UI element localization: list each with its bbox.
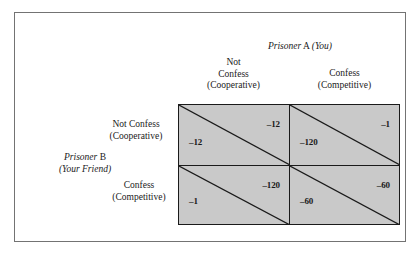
row-header-1-line1: Confess — [105, 180, 173, 192]
payoff-b-0-0: –12 — [189, 137, 202, 147]
column-header-not-confess: Not Confess (Cooperative) — [178, 57, 289, 92]
payoff-a-1-1: –60 — [377, 180, 390, 190]
cell-diagonal-line-icon — [290, 105, 399, 165]
column-axis-title-suffix: (You) — [312, 41, 332, 51]
column-axis-title: Prisoner A (You) — [205, 41, 395, 52]
figure-frame: Prisoner A (You) Not Confess (Cooperativ… — [14, 12, 406, 242]
column-header-0-line2: Confess — [178, 69, 289, 81]
column-axis-title-letter: A — [303, 41, 309, 51]
row-header-0-line2: (Cooperative) — [99, 131, 173, 143]
row-axis-title-line1: Prisoner B — [37, 152, 133, 164]
row-axis-title-letter: B — [100, 152, 106, 162]
column-header-0-line3: (Cooperative) — [178, 80, 289, 92]
column-header-1-line2: (Competitive) — [289, 80, 400, 92]
payoff-a-0-0: –12 — [267, 119, 280, 129]
matrix-cell-notconfess-notconfess: –12 –12 — [179, 105, 289, 165]
cell-diagonal-line-icon — [179, 166, 289, 225]
cell-diagonal-line-icon — [290, 166, 399, 225]
scan-artifact-strip — [0, 0, 419, 7]
column-header-1-line1: Confess — [289, 68, 400, 80]
payoff-b-0-1: –120 — [300, 137, 318, 147]
column-header-0-line1: Not — [178, 57, 289, 69]
payoff-matrix: –12 –12 –1 –120 –120 –1 –60 –60 — [178, 104, 400, 225]
matrix-cell-confess-confess: –60 –60 — [289, 165, 399, 225]
row-header-confess: Confess (Competitive) — [105, 180, 173, 203]
payoff-a-1-0: –120 — [262, 180, 280, 190]
payoff-b-1-1: –60 — [300, 196, 313, 206]
row-axis-title-line2: (Your Friend) — [37, 164, 133, 176]
row-header-1-line2: (Competitive) — [105, 192, 173, 204]
row-axis-title: Prisoner B (Your Friend) — [37, 152, 133, 175]
cell-diagonal-line-icon — [179, 105, 289, 165]
column-header-confess: Confess (Competitive) — [289, 68, 400, 91]
column-axis-title-prefix: Prisoner — [268, 41, 301, 51]
matrix-cell-notconfess-confess: –1 –120 — [289, 105, 399, 165]
payoff-b-1-0: –1 — [189, 196, 198, 206]
row-axis-title-prefix: Prisoner — [64, 152, 97, 162]
row-header-not-confess: Not Confess (Cooperative) — [99, 119, 173, 142]
payoff-a-0-1: –1 — [381, 119, 390, 129]
matrix-cell-confess-notconfess: –120 –1 — [179, 165, 289, 225]
row-header-0-line1: Not Confess — [99, 119, 173, 131]
